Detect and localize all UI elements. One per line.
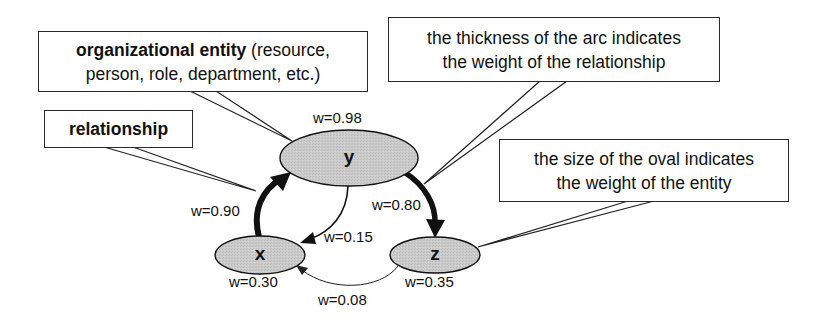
callout-pointer-oval-size	[478, 201, 654, 247]
callout-entity-line1: organizational entity (resource,	[76, 38, 330, 62]
callout-arc-line2: the weight of the relationship	[443, 50, 666, 74]
edge-y-to-x-weight: w=0.15	[324, 228, 373, 245]
edge-z-to-x-weight: w=0.08	[318, 291, 367, 308]
callout-organizational-entity: organizational entity (resource, person,…	[38, 31, 368, 92]
edge-z-to-x	[302, 266, 398, 285]
callout-oval-size: the size of the oval indicates the weigh…	[499, 139, 789, 202]
callout-entity-line2: person, role, department, etc.)	[86, 62, 320, 86]
node-y-label: y	[344, 146, 355, 168]
callout-relationship-label: relationship	[69, 117, 168, 141]
callout-arc-thickness: the thickness of the arc indicates the w…	[388, 17, 720, 82]
callout-entity-title: organizational entity	[76, 40, 246, 60]
node-y-weight: w=0.98	[313, 109, 362, 126]
callout-oval-line2: the weight of the entity	[556, 171, 731, 195]
node-x-label: x	[255, 243, 266, 265]
arrowhead-y-to-x	[300, 232, 316, 244]
arrowhead-y-to-z	[426, 219, 445, 238]
edge-x-to-y-weight: w=0.90	[191, 202, 240, 219]
callout-pointer-entity	[190, 91, 292, 141]
callout-entity-paren: (resource,	[246, 40, 330, 60]
node-z-weight: w=0.35	[405, 273, 454, 290]
node-z-label: z	[430, 243, 440, 265]
edge-x-to-y	[257, 178, 282, 237]
callout-arc-line1: the thickness of the arc indicates	[427, 26, 681, 50]
callout-oval-line1: the size of the oval indicates	[534, 147, 754, 171]
callout-pointer-relationship	[104, 147, 256, 191]
edge-y-to-z-weight: w=0.80	[372, 196, 421, 213]
callout-relationship: relationship	[44, 110, 193, 148]
node-x-weight: w=0.30	[229, 273, 278, 290]
